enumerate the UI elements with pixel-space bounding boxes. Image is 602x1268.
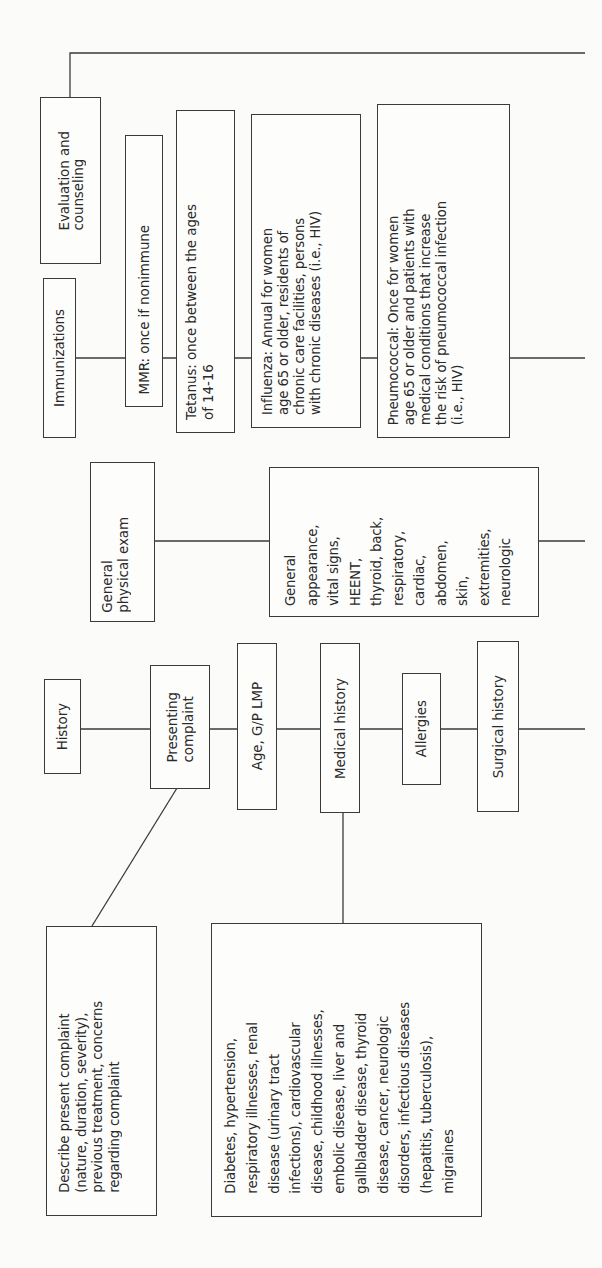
- history-label: History: [56, 703, 69, 750]
- presenting-complaint-detail-label: Describe present complaint (nature, dura…: [57, 1001, 123, 1193]
- influenza-label: Influenza: Annual for women age 65 or ol…: [260, 211, 324, 415]
- medical-history-detail-label: Diabetes, hypertension, respiratory illn…: [220, 1002, 460, 1194]
- connector-presenting-detail: [92, 788, 177, 926]
- age-gp-lmp-box: Age, G/P LMP: [237, 643, 277, 810]
- tetanus-box: Tetanus: once between the ages of 14-16: [176, 110, 235, 433]
- evaluation-counseling-label: Evaluation and counseling: [57, 131, 85, 231]
- immunizations-label: Immunizations: [53, 309, 66, 407]
- age-gp-lmp-label: Age, G/P LMP: [251, 682, 264, 770]
- surgical-history-label: Surgical history: [492, 675, 505, 778]
- presenting-complaint-box: Presenting complaint: [150, 665, 210, 789]
- tetanus-label: Tetanus: once between the ages of 14-16: [183, 204, 217, 420]
- pneumococcal-box: Pneumococcal: Once for women age 65 or o…: [377, 104, 510, 438]
- connector-evaluation: [70, 53, 585, 97]
- general-physical-exam-box: General physical exam: [90, 462, 155, 622]
- general-physical-exam-label: General physical exam: [99, 517, 131, 613]
- exam-components-box: General appearance, vital signs, HEENT, …: [269, 467, 539, 617]
- medical-history-detail-box: Diabetes, hypertension, respiratory illn…: [211, 923, 482, 1217]
- mmr-label: MMR: once if nonimmune: [138, 225, 151, 394]
- presenting-complaint-detail-box: Describe present complaint (nature, dura…: [46, 926, 157, 1216]
- history-box: History: [44, 679, 81, 774]
- medical-history-label: Medical history: [334, 678, 347, 779]
- immunizations-box: Immunizations: [43, 278, 76, 438]
- exam-components-label: General appearance, vital signs, HEENT, …: [280, 517, 517, 606]
- allergies-label: Allergies: [415, 700, 428, 757]
- pneumococcal-label: Pneumococcal: Once for women age 65 or o…: [386, 201, 466, 425]
- presenting-complaint-label: Presenting complaint: [164, 692, 196, 763]
- influenza-box: Influenza: Annual for women age 65 or ol…: [251, 114, 361, 428]
- medical-history-box: Medical history: [320, 643, 360, 813]
- allergies-box: Allergies: [402, 673, 441, 785]
- evaluation-counseling-box: Evaluation and counseling: [40, 97, 101, 264]
- mmr-box: MMR: once if nonimmune: [125, 135, 163, 407]
- surgical-history-box: Surgical history: [477, 641, 519, 812]
